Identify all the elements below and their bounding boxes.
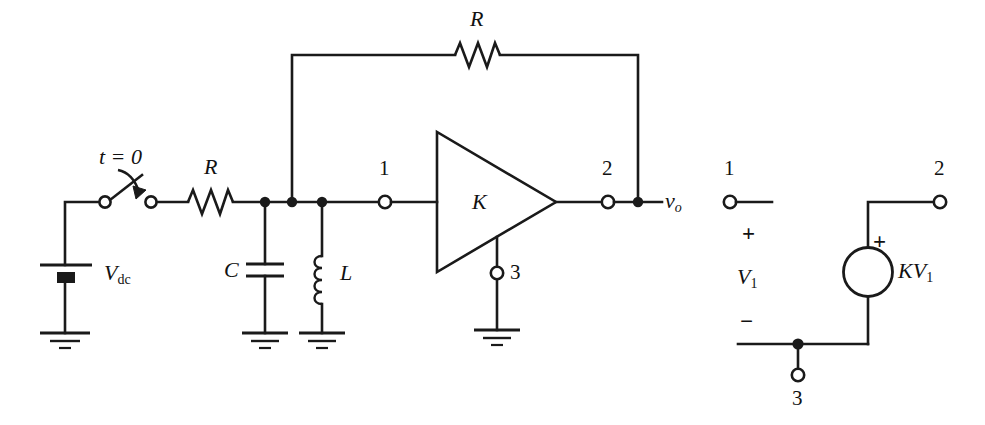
inductor-coils (315, 256, 323, 304)
terminal-2-label: 2 (602, 158, 613, 179)
terminal-1-marker[interactable] (379, 196, 391, 208)
model-source-label-main: KV (898, 258, 926, 283)
switch-time-label: t = 0 (99, 146, 142, 168)
output-voltage-label: vo (665, 190, 682, 215)
feedback-left-wire (292, 55, 455, 202)
terminal-3-marker[interactable] (491, 267, 503, 279)
model-source-label-sub: 1 (926, 270, 933, 285)
circuit-schematic-svg (0, 0, 985, 425)
model-input-minus-label: − (740, 310, 753, 333)
model-terminal-1-label: 1 (724, 158, 735, 179)
switch-left-terminal (99, 196, 110, 207)
model-source-label: KV1 (898, 260, 933, 285)
model-input-voltage-sub: 1 (750, 276, 757, 291)
capacitor-branch (242, 202, 288, 348)
terminal-1-label: 1 (379, 158, 390, 179)
model-terminal-2-label: 2 (934, 158, 945, 179)
model-terminal-1-marker[interactable] (724, 196, 736, 208)
model-terminal-3-marker[interactable] (792, 369, 804, 381)
output-voltage-main: v (665, 188, 675, 213)
model-input-plus-label: + (742, 222, 755, 245)
series-resistor-symbol (188, 190, 233, 214)
inductor-branch (299, 202, 345, 348)
inductor-label: L (340, 262, 352, 284)
dc-source-label-sub: dc (117, 272, 130, 287)
output-voltage-sub: o (675, 200, 682, 215)
model-terminal-3-label: 3 (792, 388, 803, 409)
model-input-voltage-main: V (737, 264, 750, 289)
capacitor-label: C (224, 259, 239, 281)
vcvs-circle (844, 248, 893, 297)
amplifier-gain-label: K (472, 191, 487, 213)
series-resistor-label: R (204, 156, 217, 178)
feedback-network (292, 43, 638, 202)
amplifier-symbol (437, 132, 556, 345)
feedback-resistor-zigzag (455, 43, 500, 67)
dc-source-branch (40, 202, 105, 348)
switch-arrow-head (133, 186, 146, 199)
model-terminal-2-marker[interactable] (934, 196, 946, 208)
terminal-3-label: 3 (510, 262, 521, 283)
model-source-plus-label: + (873, 230, 886, 253)
battery-short-plate (57, 272, 75, 283)
switch-right-terminal (145, 196, 156, 207)
switch-symbol[interactable] (99, 170, 156, 208)
model-input-voltage-label: V1 (737, 266, 757, 291)
source-top-wire (65, 202, 105, 265)
series-resistor-zigzag (188, 190, 233, 214)
terminal-2-marker[interactable] (602, 196, 614, 208)
circuit-diagram-figure: t = 0 Vdc R R C L K 1 2 3 vo 1 2 3 + − V… (0, 0, 985, 425)
feedback-resistor-label: R (470, 8, 483, 30)
dc-source-label: Vdc (104, 262, 131, 287)
dc-source-label-main: V (104, 260, 117, 285)
